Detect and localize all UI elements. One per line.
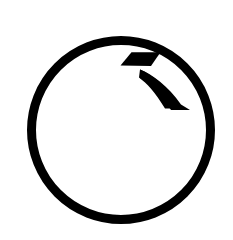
circular-logo-icon [0,0,233,240]
logo-canvas: Black circular outline logo with a styli… [0,0,233,240]
